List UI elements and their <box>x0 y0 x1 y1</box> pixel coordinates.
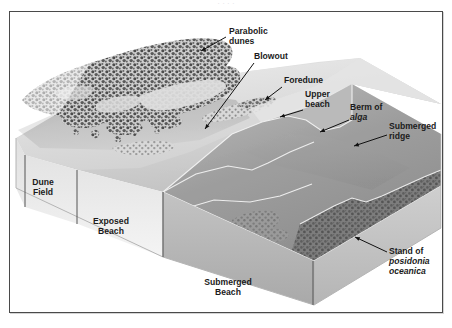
figure-page: · · · · <box>0 0 452 328</box>
zone-label-exposed-beach: ExposedBeach <box>93 216 129 236</box>
label-stand-of-posidonia-oceanica: Stand ofposidoniaoceanica <box>388 246 430 276</box>
label-parabolic-dunes: Parabolicdunes <box>229 26 268 46</box>
zone-label-dune-field: DuneField <box>32 177 54 197</box>
label-blowout: Blowout <box>254 51 288 61</box>
block-diagram-canvas: DuneFieldExposedBeachSubmergedBeach Para… <box>0 0 452 328</box>
zone-label-submerged-beach: SubmergedBeach <box>204 277 251 297</box>
label-foredune: Foredune <box>284 75 323 85</box>
label-upper-beach: Upperbeach <box>305 89 330 109</box>
